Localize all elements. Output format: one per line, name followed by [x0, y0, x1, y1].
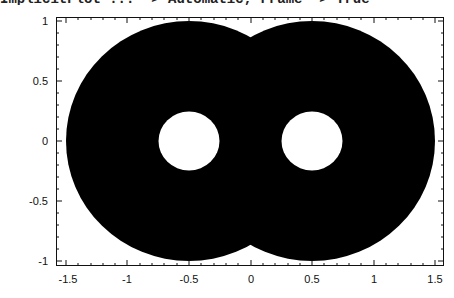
x-tick-labels: -1.5 -1 -0.5 0 0.5 1 1.5 [59, 273, 443, 285]
x-tick-label: -1 [122, 273, 132, 285]
plot-canvas: -1.5 -1 -0.5 0 0.5 1 1.5 1 0.5 0 -0.5 -1 [0, 0, 454, 298]
right-hole [282, 112, 343, 171]
y-tick-labels: 1 0.5 0 -0.5 -1 [29, 15, 48, 267]
x-tick-label: -1.5 [59, 273, 78, 285]
left-hole [159, 112, 220, 171]
x-tick-label: 1.5 [427, 273, 442, 285]
y-tick-label: 0.5 [33, 75, 48, 87]
x-tick-label: 1 [371, 273, 377, 285]
y-tick-label: -1 [38, 255, 48, 267]
y-tick-label: 0 [42, 135, 48, 147]
x-tick-label: 0.5 [304, 273, 319, 285]
x-tick-label: -0.5 [180, 273, 199, 285]
y-tick-label: 1 [42, 15, 48, 27]
region-plot [66, 21, 435, 261]
y-tick-label: -0.5 [29, 195, 48, 207]
x-tick-label: 0 [248, 273, 254, 285]
